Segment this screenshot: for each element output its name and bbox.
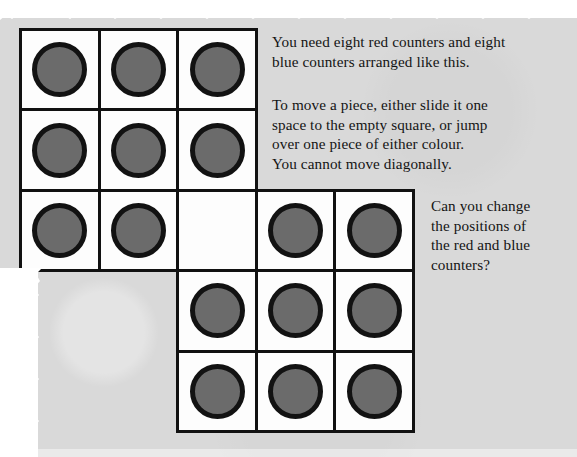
counter-piece[interactable] <box>347 203 402 258</box>
instruction-line: space to the empty square, or jump <box>272 115 572 135</box>
counter-piece[interactable] <box>111 203 166 258</box>
instruction-line: You cannot move diagonally. <box>272 154 572 174</box>
instruction-line: the red and blue <box>431 235 577 255</box>
page-bottom-edge <box>0 449 577 457</box>
counter-piece[interactable] <box>347 283 402 338</box>
instruction-line: the positions of <box>431 216 577 236</box>
instruction-paragraph-rules: To move a piece, either slide it one spa… <box>272 95 572 173</box>
counter-piece[interactable] <box>268 203 323 258</box>
counter-piece[interactable] <box>111 123 166 178</box>
counter-piece[interactable] <box>190 123 245 178</box>
puzzle-page: You need eight red counters and eight bl… <box>0 0 577 457</box>
instruction-line: Can you change <box>431 196 577 216</box>
instruction-line: counters? <box>431 255 577 275</box>
counter-piece[interactable] <box>190 364 245 419</box>
instruction-line: blue counters arranged like this. <box>272 52 572 72</box>
page-top-torn-edge <box>0 11 577 20</box>
instruction-line: over one piece of either colour. <box>272 134 572 154</box>
counter-piece[interactable] <box>32 203 87 258</box>
counter-piece[interactable] <box>32 123 87 178</box>
counter-piece[interactable] <box>111 42 166 97</box>
instruction-paragraph-question: Can you change the positions of the red … <box>431 196 577 274</box>
instruction-paragraph-setup: You need eight red counters and eight bl… <box>272 32 572 71</box>
counter-piece[interactable] <box>190 283 245 338</box>
page-left-torn-edge <box>30 268 42 457</box>
instruction-line: To move a piece, either slide it one <box>272 95 572 115</box>
counter-piece[interactable] <box>347 364 402 419</box>
instruction-line: You need eight red counters and eight <box>272 32 572 52</box>
counter-piece[interactable] <box>268 364 323 419</box>
board-cell-empty[interactable] <box>176 189 258 272</box>
counter-piece[interactable] <box>190 42 245 97</box>
